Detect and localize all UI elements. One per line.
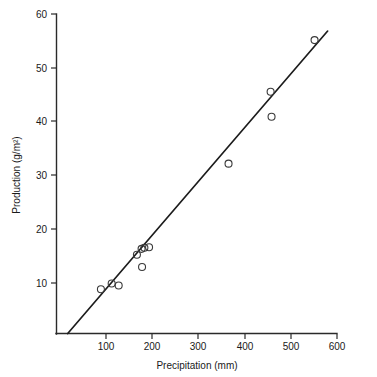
data-point — [268, 113, 275, 120]
data-point — [139, 263, 146, 270]
y-tick-label-50: 50 — [36, 63, 48, 74]
y-axis-tick-labels: 60 50 40 30 20 10 — [36, 9, 48, 289]
x-tick-label-500: 500 — [283, 341, 300, 352]
x-tick-label-100: 100 — [98, 341, 115, 352]
x-axis-title: Precipitation (mm) — [156, 360, 237, 371]
data-points — [97, 37, 318, 293]
plot-canvas: 60 50 40 30 20 10 100 200 300 400 500 60… — [0, 0, 377, 377]
x-tick-label-400: 400 — [237, 341, 254, 352]
regression-line — [68, 31, 328, 333]
x-tick-label-600: 600 — [329, 341, 346, 352]
data-point — [115, 282, 122, 289]
y-axis-ticks — [51, 14, 56, 283]
y-tick-label-30: 30 — [36, 170, 48, 181]
y-axis-title: Production (g/m²) — [11, 136, 22, 213]
data-point — [311, 37, 318, 44]
axis-lines — [56, 14, 337, 334]
x-tick-label-200: 200 — [144, 341, 161, 352]
y-tick-label-20: 20 — [36, 224, 48, 235]
x-tick-label-300: 300 — [190, 341, 207, 352]
x-axis-tick-labels: 100 200 300 400 500 600 — [98, 341, 346, 352]
y-tick-label-40: 40 — [36, 116, 48, 127]
y-tick-label-60: 60 — [36, 9, 48, 20]
scatter-plot-figure: 60 50 40 30 20 10 100 200 300 400 500 60… — [0, 0, 377, 377]
data-point — [225, 160, 232, 167]
data-point — [146, 244, 153, 251]
data-point — [97, 286, 104, 293]
x-axis-ticks — [106, 334, 337, 339]
y-tick-label-10: 10 — [36, 278, 48, 289]
data-point — [267, 88, 274, 95]
